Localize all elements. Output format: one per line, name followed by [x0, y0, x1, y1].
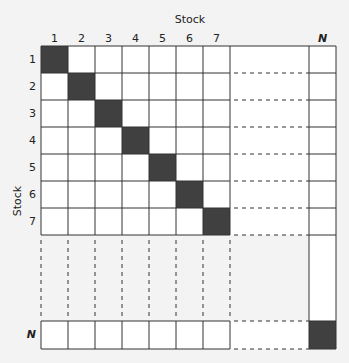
matrix-grid: [0, 0, 349, 363]
